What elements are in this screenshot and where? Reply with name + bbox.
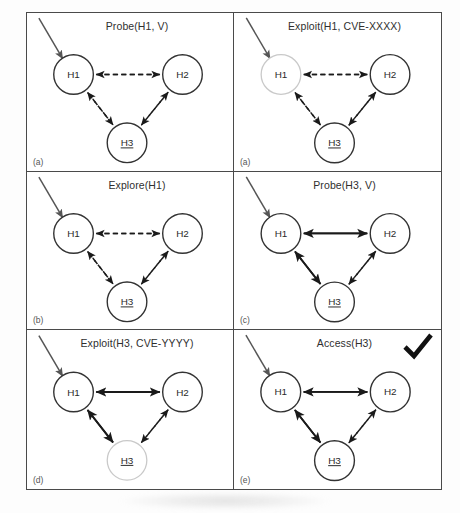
panel-label: (a): [240, 157, 250, 167]
edge-h2-h3: [349, 92, 376, 125]
edge-h1-h3: [88, 251, 113, 283]
node-label-h3: H3: [121, 296, 134, 307]
edge-h2-h3: [141, 410, 168, 443]
attack-graph: H1H2H3: [27, 13, 233, 171]
node-h2: H2: [370, 372, 410, 412]
node-h3: H3: [315, 282, 355, 322]
panel-label: (e): [240, 475, 250, 485]
panel-title: Probe(H3, V): [234, 179, 441, 191]
edge-h2-h3: [349, 410, 376, 443]
edge-h2-h3: [349, 251, 376, 284]
node-label-h1: H1: [67, 228, 80, 239]
node-label-h2: H2: [384, 69, 397, 80]
node-h1: H1: [54, 373, 94, 413]
panel-title: Exploit(H1, CVE-XXXX): [234, 20, 441, 32]
node-h1: H1: [54, 213, 94, 253]
edge-h1-h3: [295, 251, 320, 284]
panel-label: (a): [33, 157, 43, 167]
node-h3: H3: [315, 123, 355, 163]
node-h2: H2: [163, 373, 203, 413]
panel-access-h3: H1H2H3Access(H3)(e): [234, 330, 441, 489]
panel-probe-h1: H1H2H3Probe(H1, V)(a): [27, 13, 234, 172]
scan-smudge: [120, 492, 330, 510]
node-h1: H1: [54, 55, 94, 95]
panel-explore-h1: H1H2H3Explore(H1)(b): [27, 172, 234, 331]
figure-page: H1H2H3Probe(H1, V)(a)H1H2H3Exploit(H1, C…: [0, 0, 460, 513]
edge-h1-h3: [88, 92, 113, 124]
node-label-h1: H1: [274, 387, 287, 398]
attack-graph: H1H2H3: [234, 172, 441, 330]
node-label-h3: H3: [121, 137, 134, 148]
panel-exploit-h3: H1H2H3Exploit(H3, CVE-YYYY)(d): [27, 330, 234, 489]
node-label-h2: H2: [384, 387, 397, 398]
node-h3: H3: [107, 441, 147, 481]
panel-label: (c): [240, 315, 250, 325]
panel-probe-h3: H1H2H3Probe(H3, V)(c): [234, 172, 441, 331]
node-h3: H3: [107, 123, 147, 163]
panel-title: Explore(H1): [27, 179, 233, 191]
node-label-h3: H3: [328, 137, 341, 148]
node-h2: H2: [163, 55, 203, 95]
node-h2: H2: [370, 55, 410, 95]
attack-graph: H1H2H3: [234, 13, 441, 171]
edge-h1-h3: [295, 410, 321, 443]
node-h3: H3: [315, 441, 355, 481]
node-label-h2: H2: [176, 387, 189, 398]
node-label-h1: H1: [67, 69, 80, 80]
node-label-h3: H3: [121, 455, 134, 466]
node-label-h1: H1: [275, 228, 288, 239]
node-h3: H3: [107, 282, 147, 322]
node-h2: H2: [163, 213, 203, 253]
panel-title: Probe(H1, V): [27, 20, 233, 32]
node-label-h3: H3: [328, 296, 341, 307]
checkmark-icon: [401, 332, 435, 362]
node-h1: H1: [261, 213, 301, 253]
node-label-h2: H2: [176, 69, 189, 80]
attack-graph: H1H2H3: [27, 172, 233, 330]
node-h1: H1: [261, 55, 301, 95]
panel-label: (b): [33, 315, 43, 325]
edge-h1-h3: [88, 410, 113, 442]
node-label-h2: H2: [176, 228, 189, 239]
node-h2: H2: [370, 213, 410, 253]
node-label-h2: H2: [384, 228, 397, 239]
panel-grid: H1H2H3Probe(H1, V)(a)H1H2H3Exploit(H1, C…: [26, 12, 442, 490]
node-label-h3: H3: [328, 455, 341, 466]
attack-graph: H1H2H3: [27, 330, 233, 489]
node-label-h1: H1: [275, 69, 288, 80]
edge-h1-h3: [295, 92, 320, 124]
panel-label: (d): [33, 475, 43, 485]
panel-exploit-h1: H1H2H3Exploit(H1, CVE-XXXX)(a): [234, 13, 441, 172]
edge-h2-h3: [141, 92, 168, 125]
panel-title: Exploit(H3, CVE-YYYY): [27, 337, 233, 349]
node-label-h1: H1: [67, 387, 80, 398]
edge-h2-h3: [141, 251, 168, 284]
node-h1: H1: [261, 372, 301, 412]
